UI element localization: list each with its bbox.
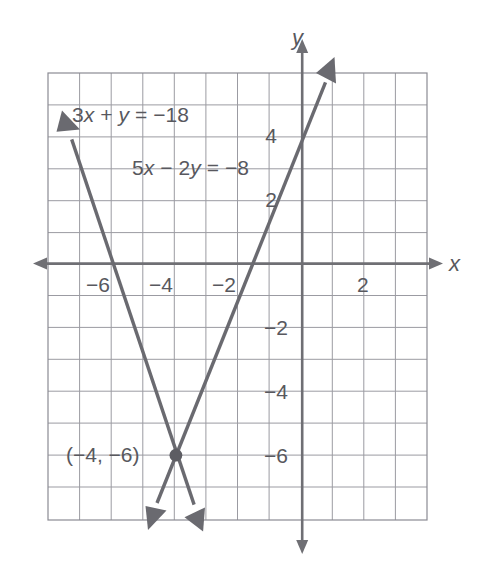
x-tick-label-2: 2 <box>357 273 369 296</box>
x-axis-right-arrow <box>429 258 443 270</box>
x-tick-label--2: −2 <box>212 273 236 296</box>
y-tick-label--4: −4 <box>264 380 288 403</box>
eq2-op: − <box>160 156 172 179</box>
eq2-var-x: x <box>143 156 156 179</box>
svg-text:5x−2y=−8: 5x−2y=−8 <box>132 156 249 179</box>
y-tick-label--6: −6 <box>264 444 288 467</box>
intersection-point-marker <box>170 449 183 462</box>
x-axis-label: x <box>448 251 461 276</box>
y-tick-label-4: 4 <box>265 124 277 147</box>
x-tick-label--4: −4 <box>149 273 173 296</box>
eq2-var-y: y <box>188 156 202 179</box>
x-tick-label--6: −6 <box>86 273 110 296</box>
graph-figure: x y −6 −4 −2 2 4 2 −2 −4 −6 3x+y=−18 5x−… <box>0 0 486 565</box>
solution-point-label: (−4, −6) <box>66 443 140 466</box>
eq1-coef: 3 <box>72 103 84 126</box>
eq1-op: + <box>100 103 112 126</box>
eq2-coef2: 2 <box>178 156 190 179</box>
eq2-coef: 5 <box>132 156 144 179</box>
eq1-var-y: y <box>116 103 130 126</box>
y-axis-bottom-arrow <box>296 540 308 554</box>
eq1-var-x: x <box>83 103 96 126</box>
eq2-rhs: −8 <box>225 156 249 179</box>
y-tick-label-2: 2 <box>265 188 277 211</box>
eq1-rhs: −18 <box>153 103 189 126</box>
x-axis-left-arrow <box>33 258 47 270</box>
y-axis-label: y <box>290 25 305 50</box>
y-tick-label--2: −2 <box>264 316 288 339</box>
eq2-equals: = <box>207 156 219 179</box>
coordinate-plane-svg: x y −6 −4 −2 2 4 2 −2 −4 −6 3x+y=−18 5x−… <box>0 0 486 565</box>
eq1-equals: = <box>135 103 147 126</box>
equation-label-2: 5x−2y=−8 <box>132 156 249 179</box>
